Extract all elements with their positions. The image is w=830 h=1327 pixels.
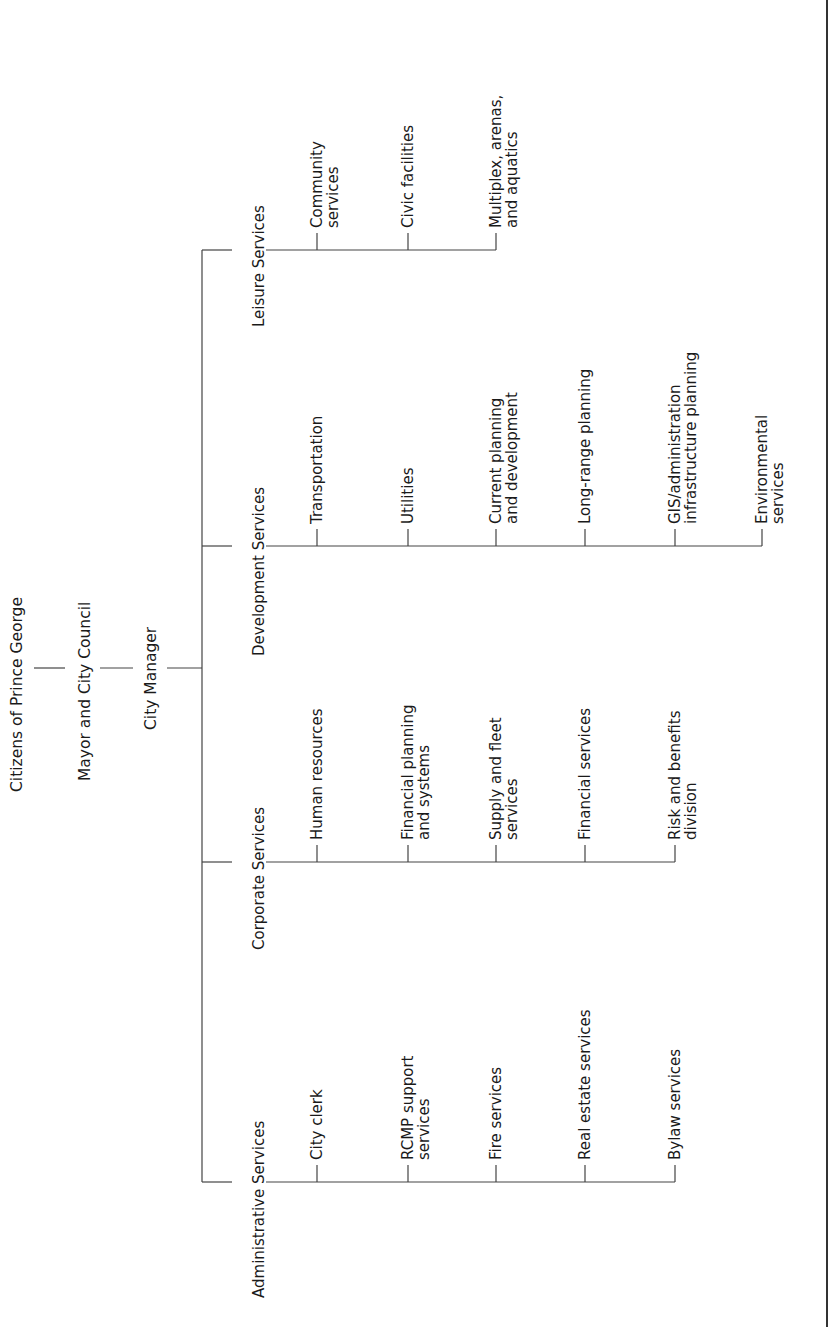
node-city-manager: City Manager	[142, 626, 160, 730]
department-development-services: Development Services Transportation Util…	[202, 352, 787, 656]
unit-label: Multiplex, arenas,and aquatics	[487, 95, 521, 228]
org-chart-svg: Citizens of Prince George Mayor and City…	[0, 0, 830, 1327]
page-border	[826, 0, 828, 1327]
unit-label: City clerk	[308, 1089, 326, 1160]
node-mayor-council: Mayor and City Council	[76, 602, 94, 781]
unit-label: Supply and fleetservices	[487, 717, 521, 840]
department-label: Leisure Services	[250, 205, 268, 327]
department-corporate-services: Corporate Services Human resources Finan…	[202, 704, 700, 950]
unit-label: Current planningand development	[487, 392, 521, 524]
department-leisure-services: Leisure Services Communityservices Civic…	[202, 95, 521, 327]
unit-label: Long-range planning	[576, 369, 594, 524]
unit-label: RCMP supportservices	[399, 1055, 433, 1160]
node-citizens: Citizens of Prince George	[8, 597, 26, 792]
department-label: Corporate Services	[250, 807, 268, 950]
unit-label: Communityservices	[308, 141, 342, 228]
org-chart: Citizens of Prince George Mayor and City…	[0, 0, 830, 1327]
unit-label: Civic facilities	[399, 125, 417, 228]
unit-label: Financial planningand systems	[399, 704, 433, 840]
unit-label: Real estate services	[576, 1009, 594, 1160]
unit-label: Transportation	[308, 416, 326, 525]
department-administrative-services: Administrative Services City clerk RCMP …	[202, 1009, 684, 1298]
unit-label: Human resources	[308, 708, 326, 840]
top-hierarchy: Citizens of Prince George Mayor and City…	[8, 597, 202, 792]
unit-label: GIS/administrationinfrastructure plannin…	[666, 352, 700, 524]
department-label: Development Services	[250, 487, 268, 656]
unit-label: Utilities	[399, 467, 417, 524]
department-label: Administrative Services	[250, 1121, 268, 1298]
unit-label: Risk and benefitsdivision	[666, 710, 700, 840]
unit-label: Financial services	[576, 708, 594, 840]
unit-label: Fire services	[487, 1067, 505, 1160]
unit-label: Environmentalservices	[753, 415, 787, 524]
unit-label: Bylaw services	[666, 1049, 684, 1160]
